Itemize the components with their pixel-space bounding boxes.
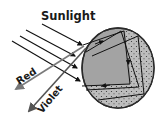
raindrop-diagram: Sunlight Red Violet [0,0,159,123]
sunlight-label: Sunlight [41,9,96,23]
red-label: Red [14,66,38,87]
raindrop [82,28,159,110]
